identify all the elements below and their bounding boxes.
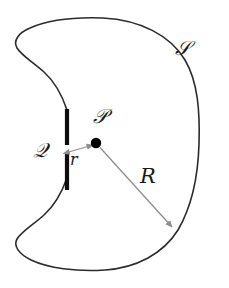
label-distance-r: r <box>70 152 78 168</box>
label-point-P: 𝒫 <box>93 106 107 126</box>
arrow-r <box>64 145 94 154</box>
arrow-R <box>100 148 172 228</box>
label-surface-S: 𝒮 <box>175 38 190 58</box>
point-P-dot <box>91 138 101 148</box>
label-distance-R: R <box>140 166 156 187</box>
label-point-Q: 𝒬 <box>33 140 47 160</box>
geometry-figure: 𝒮 𝒫 𝒬 r R <box>0 0 229 288</box>
